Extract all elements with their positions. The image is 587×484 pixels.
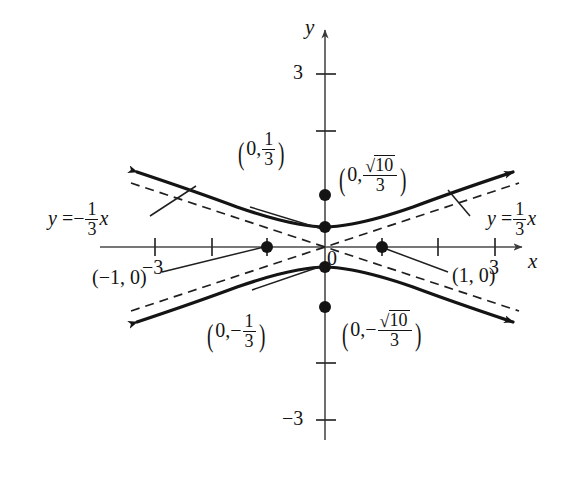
label-focus-lower: (0,−√103) (340, 310, 423, 350)
fraction-one-third: 13 (262, 130, 275, 168)
fraction-numerator: √10 (378, 310, 412, 331)
minus-sign: − (230, 319, 241, 341)
fraction-denominator: 3 (378, 331, 412, 350)
paren-close: ) (278, 138, 284, 169)
paren-open: ( (207, 320, 213, 351)
label-focus-upper: (0,√103) (337, 155, 409, 195)
label-asymptote-negative: y =−13x (48, 200, 108, 238)
paren-close: ) (414, 319, 420, 350)
fraction-numerator: 1 (513, 200, 526, 220)
fraction-one-third: 13 (243, 312, 256, 350)
hyperbola-figure: y x 0 3 −3 −3 3 (0,13) (0,√103) (0,−13) … (0, 0, 587, 484)
equals-sign: = (501, 207, 512, 229)
fraction-numerator: 1 (85, 200, 98, 220)
point-vertex-upper (319, 221, 331, 233)
radicand: 10 (389, 310, 410, 330)
fraction-sqrt10-over-3: √103 (378, 310, 412, 349)
minus-sign: − (365, 318, 376, 340)
minus-sign: − (73, 207, 84, 229)
equals-sign: = (62, 207, 73, 229)
radical-icon: √ (380, 312, 390, 331)
equation-lhs: y (487, 207, 496, 229)
fraction-denominator: 3 (262, 150, 275, 169)
axis-lines (100, 30, 522, 440)
paren-close: ) (259, 320, 265, 351)
leader-point-left (162, 246, 268, 272)
y-tick-label-minus3: −3 (282, 408, 303, 428)
label-vertex-upper: (0,13) (236, 130, 287, 169)
label-x-part: 0, (347, 163, 362, 185)
point-focus-upper (319, 189, 331, 201)
paren-close: ) (400, 164, 406, 195)
paren-open: ( (342, 319, 348, 350)
x-axis-label: x (528, 251, 537, 272)
fraction-denominator: 3 (243, 332, 256, 351)
radicand: 10 (374, 155, 395, 175)
equation-lhs: y (48, 207, 57, 229)
equation-variable: x (527, 207, 536, 229)
radical-icon: √ (365, 157, 375, 176)
leader-asymptote-negative (150, 186, 196, 216)
fraction-one-third: 13 (85, 200, 98, 238)
fraction-denominator: 3 (85, 220, 98, 239)
origin-label: 0 (327, 248, 337, 268)
fraction-denominator: 3 (363, 176, 397, 195)
label-asymptote-positive: y =13x (487, 200, 536, 238)
point-right (376, 241, 388, 253)
label-point-left: (−1, 0) (92, 267, 147, 287)
label-x-part: 0, (350, 318, 365, 340)
point-left (261, 241, 273, 253)
fraction-denominator: 3 (513, 220, 526, 239)
equation-variable: x (99, 207, 108, 229)
label-x-part: 0, (215, 319, 230, 341)
fraction-numerator: √10 (363, 155, 397, 176)
y-axis-label: y (305, 17, 314, 38)
fraction-sqrt10-over-3: √103 (363, 155, 397, 194)
y-tick-label-3: 3 (293, 62, 303, 82)
label-x-part: 0, (246, 137, 261, 159)
leader-lines (150, 186, 470, 290)
point-focus-lower (319, 301, 331, 313)
fraction-numerator: 1 (262, 130, 275, 150)
fraction-one-third: 13 (513, 200, 526, 238)
leader-asymptote-positive (448, 190, 470, 216)
label-point-right: (1, 0) (452, 265, 495, 285)
paren-open: ( (339, 164, 345, 195)
label-vertex-lower: (0,−13) (205, 312, 267, 351)
paren-open: ( (238, 138, 244, 169)
fraction-numerator: 1 (243, 312, 256, 332)
